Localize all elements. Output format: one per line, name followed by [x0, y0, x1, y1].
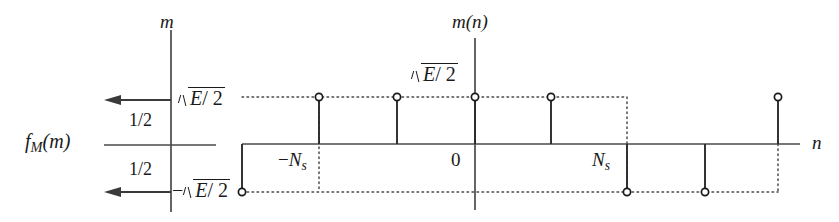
signal-tick-label-pos-ns: Ns — [592, 150, 610, 173]
signal-vertical-axis-label-arg: (n) — [466, 11, 488, 32]
pdf-upper-weight-label: 1/2 — [129, 111, 152, 129]
pdf-function-label-subscript: M — [31, 139, 43, 155]
sample-marker-2 — [393, 93, 400, 100]
sample-marker-5 — [623, 188, 630, 195]
signal-vertical-axis-label-m: m — [452, 11, 466, 32]
pdf-lower-level-radicand: E — [195, 179, 207, 201]
pdf-upper-level-radicand: E — [190, 87, 202, 109]
figure-vector-layer — [0, 0, 839, 222]
sample-marker-0 — [238, 188, 245, 195]
signal-tick-neg-ns-subscript: s — [301, 158, 306, 173]
signal-origin-tick-label: 0 — [451, 150, 461, 169]
pdf-upper-level-denominator: / 2 — [202, 87, 223, 109]
sample-marker-6 — [701, 188, 708, 195]
signal-tick-neg-ns-sign: − — [278, 149, 289, 170]
signal-positive-level-denominator: / 2 — [435, 63, 456, 85]
pdf-lower-level-denominator: / 2 — [207, 179, 228, 201]
figure-canvas: m fM(m) 1/2 1/2 E/ 2 −E/ 2 m(n) n E/ 2 0… — [0, 0, 839, 222]
sample-marker-1 — [315, 93, 322, 100]
pdf-vertical-axis-label: m — [160, 12, 174, 31]
signal-tick-pos-ns-subscript: s — [605, 158, 610, 173]
pdf-lower-level-label: −E/ 2 — [172, 179, 230, 200]
signal-positive-level-radicand: E — [423, 63, 435, 85]
signal-positive-level-label: E/ 2 — [411, 63, 458, 84]
sample-marker-4 — [547, 93, 554, 100]
signal-horizontal-axis-label: n — [812, 133, 822, 152]
pdf-function-label-argument: (m) — [43, 130, 71, 152]
sample-marker-7 — [774, 93, 781, 100]
signal-tick-neg-ns-base: N — [289, 149, 302, 170]
pdf-function-label: fM(m) — [25, 131, 70, 154]
pdf-upper-level-label: E/ 2 — [178, 87, 225, 108]
signal-tick-label-neg-ns: −Ns — [278, 150, 307, 173]
pdf-lower-impulse-arrowhead — [104, 187, 121, 197]
pdf-upper-impulse-arrowhead — [104, 95, 121, 105]
signal-vertical-axis-label: m(n) — [452, 12, 488, 31]
pdf-lower-weight-label: 1/2 — [129, 160, 152, 178]
pdf-lower-level-sign: − — [172, 179, 183, 201]
signal-tick-pos-ns-base: N — [592, 149, 605, 170]
sample-marker-3 — [471, 93, 478, 100]
